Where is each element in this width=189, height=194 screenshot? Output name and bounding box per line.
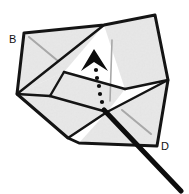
label-d: D: [161, 140, 169, 152]
label-b: B: [9, 33, 16, 45]
arrow-head-icon: [81, 49, 108, 71]
arrow-dot: [97, 84, 101, 88]
origami-figure: B D: [0, 0, 189, 194]
arrow-dot: [100, 100, 104, 104]
figure-canvas: B D: [0, 0, 189, 194]
arrow-dot: [94, 68, 98, 72]
arrow-dot: [95, 76, 99, 80]
arrow-dot: [98, 92, 102, 96]
